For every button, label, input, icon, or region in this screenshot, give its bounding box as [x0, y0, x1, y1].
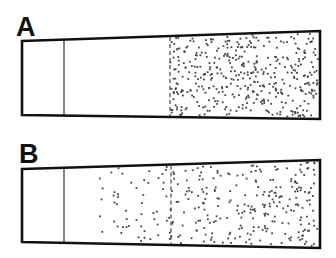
- diagram-canvas: [0, 0, 336, 258]
- panel-a: [22, 31, 320, 119]
- panel-b: [22, 160, 320, 248]
- trapezoid-outline-a: [22, 31, 320, 119]
- particle-field-a: [169, 33, 318, 118]
- particle-field-b: [99, 162, 318, 247]
